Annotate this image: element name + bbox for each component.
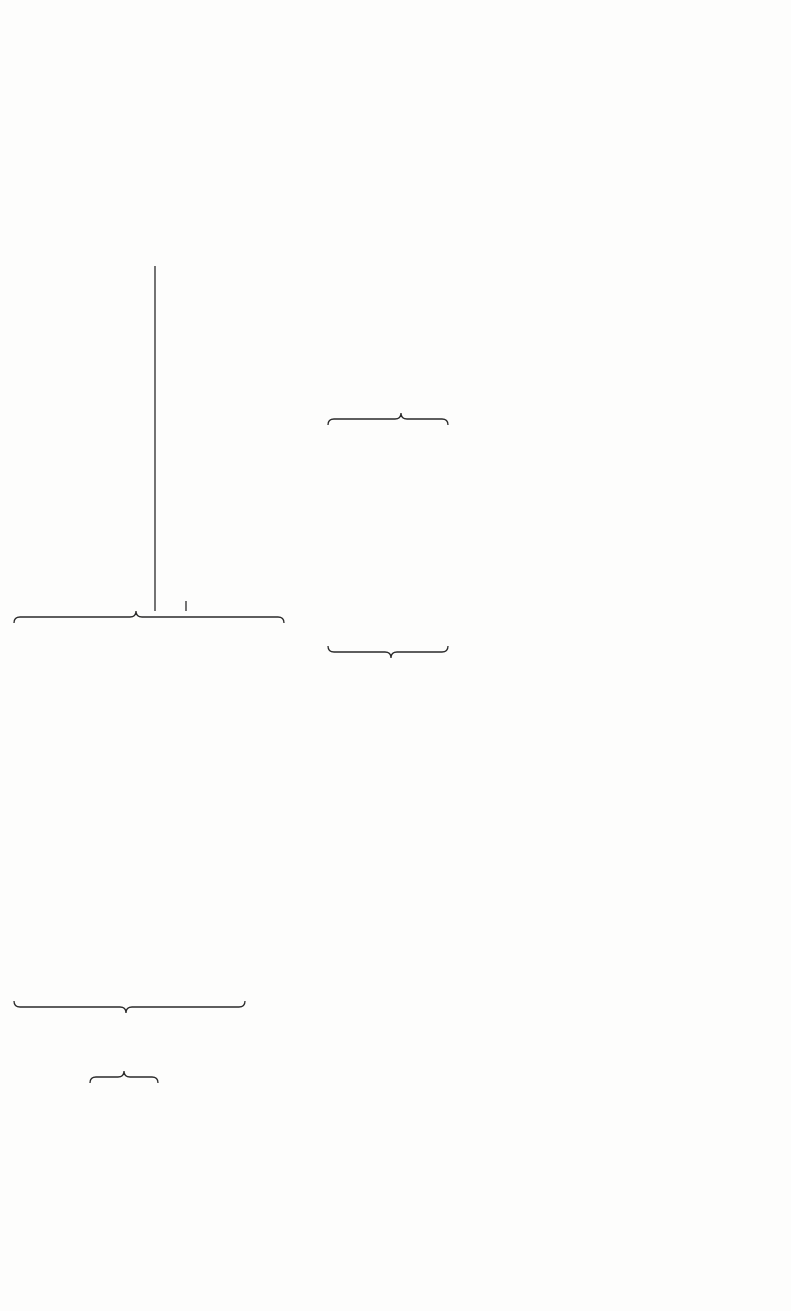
connector-lines bbox=[0, 0, 791, 1311]
brace-costs-right bbox=[14, 611, 284, 623]
rotated-figure-page bbox=[0, 0, 791, 1311]
brace-financing-right bbox=[328, 413, 448, 425]
brace-costs-left bbox=[14, 1001, 245, 1013]
brace-revenues bbox=[90, 1071, 158, 1083]
brace-financing-left bbox=[328, 646, 448, 658]
